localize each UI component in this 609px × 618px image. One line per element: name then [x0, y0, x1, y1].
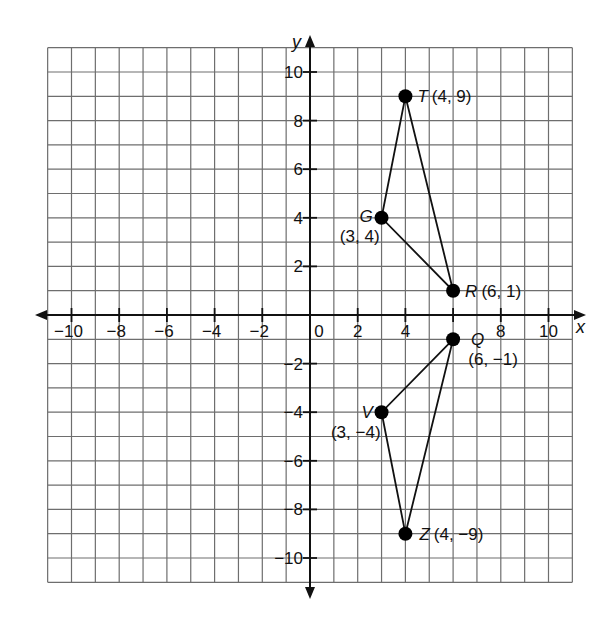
point-R — [446, 284, 460, 298]
y-tick-label: 10 — [284, 63, 303, 82]
coordinate-plane: xy −10−8−6−4−2024810108642−2−4−6−8−10 T(… — [0, 0, 609, 618]
y-tick-label: −6 — [284, 452, 303, 471]
point-coord-V: (3, −4) — [331, 423, 381, 442]
y-tick-label: −4 — [284, 403, 303, 422]
point-Q — [446, 332, 460, 346]
y-tick-label: 6 — [294, 160, 303, 179]
x-tick-label: −6 — [154, 322, 173, 341]
y-tick-label: −8 — [284, 500, 303, 519]
point-name-V: V — [362, 403, 375, 422]
y-axis-label: y — [290, 32, 302, 52]
point-name-Q: Q — [471, 330, 484, 349]
x-axis-left-arrow-icon — [35, 310, 47, 320]
y-tick-label: 2 — [294, 257, 303, 276]
x-tick-label: −8 — [107, 322, 126, 341]
y-axis-down-arrow-icon — [305, 587, 315, 599]
point-label-R: R(6, 1) — [465, 282, 521, 301]
x-tick-label: 10 — [539, 322, 558, 341]
x-tick-label: −2 — [250, 322, 269, 341]
x-axis-label: x — [575, 317, 586, 337]
point-G — [375, 211, 389, 225]
point-name-G: G — [360, 207, 373, 226]
point-Z — [398, 527, 412, 541]
point-label-Z: Z(4, −9) — [418, 525, 483, 544]
point-label-T: T(4, 9) — [417, 87, 471, 106]
x-tick-label: 2 — [353, 322, 362, 341]
y-tick-label: −10 — [274, 549, 303, 568]
axes: xy — [35, 32, 586, 599]
x-tick-label: 8 — [496, 322, 505, 341]
point-coord-Q: (6, −1) — [468, 350, 518, 369]
point-coord-G: (3, 4) — [340, 227, 380, 246]
point-V — [375, 405, 389, 419]
x-tick-label: 0 — [314, 322, 323, 341]
y-axis-up-arrow-icon — [305, 35, 315, 47]
y-tick-label: −2 — [284, 355, 303, 374]
x-tick-label: 4 — [401, 322, 410, 341]
x-tick-label: −4 — [202, 322, 221, 341]
x-tick-label: −10 — [54, 322, 83, 341]
y-tick-label: 8 — [294, 112, 303, 131]
point-T — [398, 89, 412, 103]
y-tick-label: 4 — [294, 209, 303, 228]
